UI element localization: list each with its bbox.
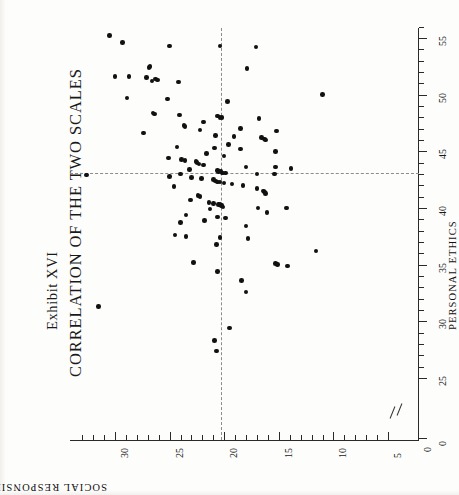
scanned-chart-page: Exhibit XVI CORRELATION OF THE TWO SCALE…	[0, 0, 459, 495]
data-point	[84, 173, 89, 178]
data-point	[175, 145, 180, 150]
social-responsibility-tick	[126, 435, 127, 440]
data-point	[147, 65, 152, 70]
social-responsibility-major-tick	[388, 432, 389, 440]
data-point	[107, 33, 112, 38]
personal-ethics-tick	[419, 242, 424, 243]
data-point	[273, 165, 278, 170]
data-point	[246, 236, 251, 241]
data-point	[120, 40, 125, 45]
personal-ethics-tick	[419, 140, 424, 141]
social-responsibility-tick	[366, 435, 367, 440]
data-point	[204, 151, 209, 156]
social-responsibility-tick	[148, 435, 149, 440]
data-point	[255, 172, 260, 177]
personal-ethics-tick	[419, 310, 424, 311]
personal-ethics-axis-title: PERSONAL ETHICS	[447, 220, 458, 330]
personal-ethics-major-tick	[419, 378, 427, 379]
social-responsibility-axis-title: SOCIAL RESPONSIBILITY	[0, 482, 107, 493]
data-point	[198, 128, 203, 133]
personal-ethics-zero-label: 0	[437, 441, 448, 446]
data-point	[176, 80, 181, 85]
personal-ethics-tick	[419, 185, 424, 186]
social-responsibility-tick	[257, 435, 258, 440]
data-point	[178, 172, 183, 177]
personal-ethics-major-tick	[419, 321, 427, 322]
personal-ethics-tick	[419, 219, 424, 220]
personal-ethics-tick	[419, 27, 424, 28]
data-point	[254, 45, 259, 50]
data-point	[152, 112, 157, 117]
personal-ethics-major-tick	[419, 208, 427, 209]
data-point	[275, 262, 280, 267]
personal-ethics-tick-label: 25	[437, 376, 448, 386]
data-point	[208, 207, 213, 212]
data-point	[202, 218, 207, 223]
personal-ethics-tick	[419, 299, 424, 300]
personal-ethics-tick-label: 55	[437, 36, 448, 46]
personal-ethics-tick	[419, 197, 424, 198]
personal-ethics-major-tick	[419, 151, 427, 152]
data-point	[189, 175, 194, 180]
personal-ethics-tick-label: 30	[437, 319, 448, 329]
social-responsibility-major-tick	[170, 432, 171, 440]
data-point	[241, 183, 246, 188]
personal-ethics-tick-label: 40	[437, 206, 448, 216]
data-point	[199, 176, 204, 181]
data-point	[113, 74, 118, 79]
personal-ethics-tick	[419, 72, 424, 73]
personal-ethics-tick-label: 50	[437, 93, 448, 103]
social-responsibility-tick	[290, 435, 291, 440]
personal-ethics-zero-tick	[419, 438, 427, 439]
personal-ethics-major-tick	[419, 38, 427, 39]
social-responsibility-tick	[82, 435, 83, 440]
data-point	[223, 171, 228, 176]
social-responsibility-tick	[323, 435, 324, 440]
data-point	[284, 206, 289, 211]
social-responsibility-tick	[355, 435, 356, 440]
social-responsibility-tick	[301, 435, 302, 440]
personal-ethics-tick-label: 45	[437, 149, 448, 159]
data-point	[223, 216, 228, 221]
social-responsibility-major-tick	[333, 432, 334, 440]
personal-ethics-tick	[419, 344, 424, 345]
social-responsibility-major-tick	[279, 432, 280, 440]
personal-ethics-tick	[419, 174, 424, 175]
data-point	[96, 304, 101, 309]
social-responsibility-tick-label: 15	[283, 448, 294, 458]
data-point	[265, 210, 270, 215]
data-point	[127, 74, 132, 79]
personal-ethics-tick	[419, 253, 424, 254]
data-point	[222, 154, 227, 159]
chart-title: CORRELATION OF THE TWO SCALES	[66, 68, 86, 377]
data-point	[285, 264, 290, 269]
data-point	[191, 260, 196, 265]
social-responsibility-tick	[104, 435, 105, 440]
data-point	[320, 92, 325, 97]
data-point	[273, 149, 278, 154]
data-point	[173, 233, 178, 238]
data-point	[244, 165, 249, 170]
social-responsibility-tick	[202, 435, 203, 440]
social-responsibility-tick	[191, 435, 192, 440]
data-point	[201, 120, 206, 125]
social-responsibility-tick	[93, 435, 94, 440]
data-point	[184, 234, 189, 239]
social-responsibility-axis-line	[70, 440, 419, 441]
data-point	[257, 116, 262, 121]
personal-ethics-tick	[419, 117, 424, 118]
data-point	[222, 181, 227, 186]
exhibit-label: Exhibit XVI	[44, 251, 61, 330]
data-point	[155, 78, 160, 83]
social-responsibility-tick	[213, 435, 214, 440]
personal-ethics-tick	[419, 355, 424, 356]
data-point	[213, 133, 218, 138]
data-point	[244, 224, 249, 229]
data-point	[211, 201, 216, 206]
data-point	[238, 147, 243, 152]
data-point	[272, 172, 277, 177]
social-responsibility-major-tick	[115, 432, 116, 440]
data-point	[212, 146, 217, 151]
data-point	[232, 134, 237, 139]
data-point	[198, 194, 203, 199]
